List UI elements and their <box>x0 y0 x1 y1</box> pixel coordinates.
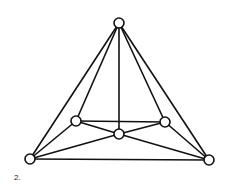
node-bottom-right <box>204 155 214 165</box>
edge-mid-right-center <box>119 122 165 134</box>
edge-top-mid-right <box>119 23 165 122</box>
edge-top-mid-left <box>76 23 119 121</box>
edge-mid-left-mid-right <box>76 121 165 122</box>
edge-top-bottom-left <box>30 23 119 159</box>
node-center <box>114 129 124 139</box>
edge-top-bottom-right <box>119 23 209 160</box>
edge-center-bottom-right <box>119 134 209 160</box>
node-mid-left <box>71 116 81 126</box>
figure-label: 2. <box>14 173 21 182</box>
node-bottom-left <box>25 154 35 164</box>
node-top <box>114 18 124 28</box>
graph-diagram <box>0 0 229 195</box>
edge-mid-left-center <box>76 121 119 134</box>
node-mid-right <box>160 117 170 127</box>
edge-bottom-left-bottom-right <box>30 159 209 160</box>
